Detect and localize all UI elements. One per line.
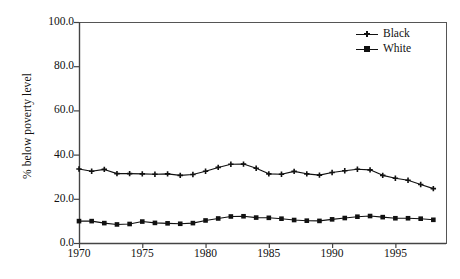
x-axis-tick-label: 1970 <box>57 248 101 260</box>
data-point-marker <box>380 215 385 220</box>
data-point-marker <box>380 173 385 178</box>
data-point-marker <box>191 221 196 226</box>
data-point-marker <box>355 166 360 171</box>
legend-label-black: Black <box>378 28 410 40</box>
x-axis-tick-label: 1990 <box>310 248 354 260</box>
x-axis-tick-label: 1995 <box>373 248 417 260</box>
legend-item-black: Black <box>356 27 436 41</box>
data-point-marker <box>406 216 411 221</box>
data-point-marker <box>203 168 208 173</box>
data-point-marker <box>165 171 170 176</box>
data-point-marker <box>330 217 335 222</box>
series-white <box>77 214 436 227</box>
data-point-marker <box>292 218 297 223</box>
data-point-marker <box>115 222 120 227</box>
data-point-marker <box>203 218 208 223</box>
data-point-marker <box>241 161 246 166</box>
data-point-marker <box>393 216 398 221</box>
data-point-marker <box>267 216 272 221</box>
data-point-marker <box>254 215 259 220</box>
data-point-marker <box>279 172 284 177</box>
data-point-marker <box>102 221 107 226</box>
data-point-marker <box>178 173 183 178</box>
data-point-marker <box>266 171 271 176</box>
poverty-rate-chart-figure: % below poverty level 0.020.040.060.080.… <box>0 0 460 279</box>
data-point-marker <box>178 221 183 226</box>
x-axis-tick-label: 1985 <box>247 248 291 260</box>
data-point-marker <box>190 172 195 177</box>
data-point-marker <box>216 216 221 221</box>
data-point-marker <box>228 162 233 167</box>
data-point-marker <box>216 165 221 170</box>
data-point-marker <box>279 216 284 221</box>
data-point-marker <box>152 172 157 177</box>
data-point-marker <box>114 171 119 176</box>
data-point-marker <box>368 214 373 219</box>
y-axis-tick-label: 80.0 <box>34 60 74 72</box>
x-axis-tick-label: 1980 <box>184 248 228 260</box>
data-point-marker <box>229 214 234 219</box>
y-axis-tick-labels: 0.020.040.060.080.0100.0 <box>28 0 74 279</box>
data-point-marker <box>77 219 82 224</box>
legend-item-white: White <box>356 42 436 56</box>
data-point-marker <box>355 214 360 219</box>
legend-label-white: White <box>378 43 411 55</box>
data-point-marker <box>291 169 296 174</box>
data-point-marker <box>140 171 145 176</box>
data-point-marker <box>418 182 423 187</box>
data-point-marker <box>317 219 322 224</box>
data-point-marker <box>393 176 398 181</box>
legend-marker-square-icon <box>356 43 378 55</box>
x-axis-tick-labels: 197019751980198519901995 <box>0 248 460 268</box>
data-point-marker <box>102 167 107 172</box>
y-axis-tick-label: 100.0 <box>34 16 74 28</box>
y-axis-tick-label: 20.0 <box>34 193 74 205</box>
data-point-marker <box>367 167 372 172</box>
data-point-marker <box>76 166 81 171</box>
data-point-marker <box>329 170 334 175</box>
x-axis-tick-label: 1975 <box>120 248 164 260</box>
data-point-marker <box>153 221 158 226</box>
y-axis-tick-label: 60.0 <box>34 104 74 116</box>
data-point-marker <box>127 222 132 227</box>
data-point-marker <box>253 166 258 171</box>
data-point-marker <box>140 219 145 224</box>
data-point-marker <box>418 216 423 221</box>
data-point-marker <box>89 168 94 173</box>
data-point-marker <box>431 218 436 223</box>
data-point-marker <box>165 221 170 226</box>
data-point-marker <box>405 178 410 183</box>
data-point-marker <box>89 219 94 224</box>
chart-legend: Black White <box>356 27 436 57</box>
data-point-marker <box>241 214 246 219</box>
data-point-marker <box>342 216 347 221</box>
legend-marker-cross-icon <box>356 28 378 40</box>
data-point-marker <box>431 186 436 191</box>
data-point-marker <box>342 168 347 173</box>
series-black <box>76 161 436 191</box>
y-axis-tick-label: 40.0 <box>34 149 74 161</box>
data-point-marker <box>304 171 309 176</box>
data-point-marker <box>304 218 309 223</box>
data-point-marker <box>127 171 132 176</box>
data-point-marker <box>317 172 322 177</box>
